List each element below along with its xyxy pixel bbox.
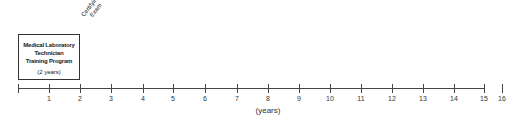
tick-mark bbox=[299, 84, 300, 93]
program-title-line-1: Medical Laboratory bbox=[19, 41, 79, 49]
training-program-box: Medical Laboratory Technician Training P… bbox=[18, 34, 80, 80]
tick-mark bbox=[454, 84, 455, 93]
tick-label: 8 bbox=[266, 95, 270, 102]
tick-mark bbox=[18, 84, 19, 93]
tick-mark bbox=[49, 84, 50, 93]
tick-label: 3 bbox=[109, 95, 113, 102]
tick-mark bbox=[268, 84, 269, 93]
tick-label: 5 bbox=[171, 95, 175, 102]
program-title-line-2: Technician bbox=[19, 49, 79, 57]
tick-mark bbox=[111, 84, 112, 93]
timeline-axis bbox=[18, 88, 485, 89]
tick-label: 16 bbox=[498, 95, 506, 102]
program-title: Medical Laboratory Technician Training P… bbox=[19, 41, 79, 65]
tick-mark bbox=[143, 84, 144, 93]
tick-mark bbox=[502, 84, 503, 93]
tick-label: 7 bbox=[235, 95, 239, 102]
tick-mark bbox=[423, 84, 424, 93]
program-duration: (2 years) bbox=[19, 68, 79, 76]
tick-label: 11 bbox=[357, 95, 364, 102]
tick-mark bbox=[205, 84, 206, 93]
career-timeline-diagram: Medical Laboratory Technician Training P… bbox=[0, 0, 522, 124]
tick-label: 15 bbox=[480, 95, 488, 102]
tick-label: 14 bbox=[450, 95, 458, 102]
tick-label: 1 bbox=[47, 95, 51, 102]
tick-label: 2 bbox=[78, 95, 82, 102]
tick-mark bbox=[80, 84, 81, 93]
tick-label: 4 bbox=[141, 95, 145, 102]
program-title-line-3: Training Program bbox=[19, 57, 79, 65]
tick-mark bbox=[392, 84, 393, 93]
tick-label: 10 bbox=[326, 95, 334, 102]
certifying-exam-label: Certifying Exam bbox=[80, 0, 107, 23]
tick-mark bbox=[361, 84, 362, 93]
tick-mark bbox=[173, 84, 174, 93]
axis-label: (years) bbox=[256, 106, 281, 115]
tick-label: 9 bbox=[297, 95, 301, 102]
tick-mark bbox=[237, 84, 238, 93]
tick-label: 6 bbox=[203, 95, 207, 102]
tick-label: 12 bbox=[388, 95, 396, 102]
tick-mark bbox=[330, 84, 331, 93]
tick-mark bbox=[484, 84, 485, 93]
tick-label: 13 bbox=[419, 95, 427, 102]
